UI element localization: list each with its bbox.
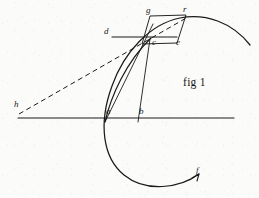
arrowhead-icon [192, 174, 199, 181]
point-label-c: c [152, 38, 156, 47]
point-label-r: r [183, 5, 187, 14]
point-label-g: g [146, 6, 151, 15]
point-label-a: a [106, 107, 111, 116]
point-label-b: b [139, 107, 144, 116]
figure-caption: fig 1 [183, 76, 206, 88]
point-label-e: e [176, 38, 180, 47]
chord-a-to-c-path [105, 24, 153, 122]
point-label-h: h [14, 100, 19, 109]
point-label-f: f [196, 166, 199, 175]
point-label-d: d [104, 27, 109, 36]
figure-canvas: h a b c d e g r f fig 1 [0, 0, 259, 198]
geometry-drawing [0, 0, 259, 198]
